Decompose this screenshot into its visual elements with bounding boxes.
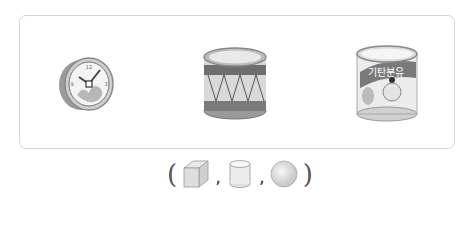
separator: , <box>215 166 221 187</box>
svg-text:12: 12 <box>86 64 92 70</box>
open-parenthesis: ( <box>167 161 177 187</box>
drum-image <box>200 45 270 121</box>
cube-icon[interactable] <box>181 158 211 190</box>
svg-text:3: 3 <box>104 81 107 87</box>
answer-choices: ( , , ) <box>160 155 320 193</box>
close-parenthesis: ) <box>303 161 313 187</box>
svg-text:9: 9 <box>70 81 73 87</box>
clock-image: 12 9 3 <box>55 55 117 113</box>
separator: , <box>259 166 265 187</box>
formula-can-image: 기탄분유 <box>352 44 422 122</box>
cylinder-icon[interactable] <box>225 158 255 190</box>
formula-label-text: 기탄분유 <box>368 67 404 78</box>
sphere-icon[interactable] <box>269 158 299 190</box>
